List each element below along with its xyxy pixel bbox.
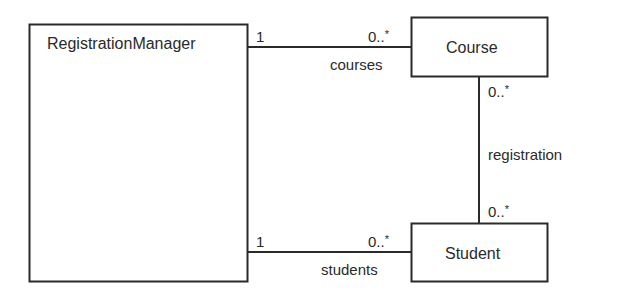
courses-to-multiplicity: 0..* [368,28,389,45]
registration-manager-class-name: RegistrationManager [47,35,196,52]
registration-manager-class-box[interactable] [30,25,248,282]
multiplicity-star: * [505,83,509,95]
courses-from-multiplicity: 1 [256,28,264,45]
multiplicity-lower: 0.. [488,203,505,220]
multiplicity-star: * [385,28,389,40]
multiplicity-lower: 0.. [368,28,385,45]
registration-student-end-multiplicity: 0..* [488,203,509,220]
courses-role-label: courses [330,56,383,73]
students-from-multiplicity: 1 [256,233,264,250]
multiplicity-star: * [385,233,389,245]
registration-course-end-multiplicity: 0..* [488,83,509,100]
multiplicity-star: * [505,203,509,215]
registration-association-name: registration [488,146,562,163]
multiplicity-lower: 0.. [368,233,385,250]
students-to-multiplicity: 0..* [368,233,389,250]
course-class-name: Course [446,39,498,56]
multiplicity-lower: 0.. [488,83,505,100]
student-class-name: Student [445,245,500,262]
students-role-label: students [321,261,378,278]
